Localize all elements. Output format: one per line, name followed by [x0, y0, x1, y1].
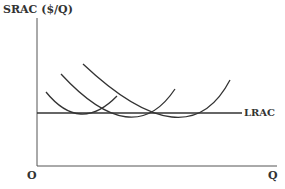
origin-label: O [27, 169, 37, 182]
x-axis-label: Q [268, 169, 278, 182]
y-axis-label: SRAC ($/Q) [3, 3, 73, 16]
srac-curve-2 [61, 74, 175, 117]
cost-diagram [0, 0, 285, 189]
lrac-label: LRAC [244, 107, 275, 118]
